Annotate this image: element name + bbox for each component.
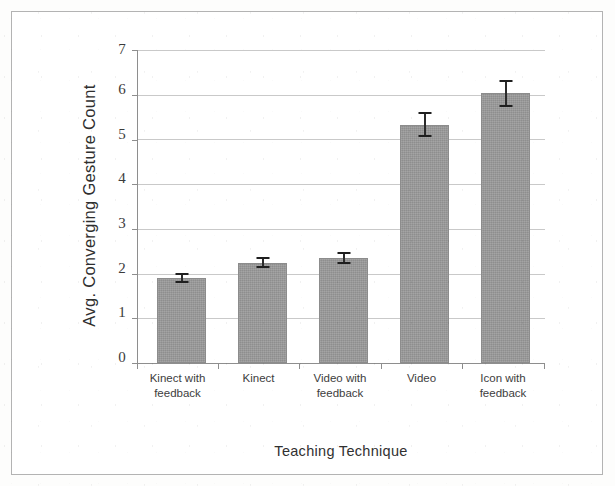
x-axis-title: Teaching Technique — [137, 443, 545, 459]
category-label-line-1: Kinect — [218, 371, 299, 386]
errorbar-cap-top — [256, 257, 269, 259]
category-label-line-1: Kinect with — [137, 371, 218, 386]
errorbar-cap-top — [418, 112, 431, 114]
category-label-line-2: feedback — [137, 386, 218, 401]
ytick-label-5: 5 — [100, 126, 126, 143]
category-label-line-1: Video with — [299, 371, 381, 386]
xtick-mark-2 — [299, 363, 300, 369]
ytick-wrap-5: 5 — [100, 126, 126, 144]
ytick-wrap-7: 7 — [100, 41, 126, 59]
errorbar-cap-bottom — [337, 262, 350, 264]
xtick-mark-1 — [218, 363, 219, 369]
ytick-label-7: 7 — [100, 41, 126, 58]
category-label-kinect: Kinect — [218, 371, 299, 386]
errorbar-stem — [505, 80, 507, 107]
bar-kinect — [238, 263, 287, 363]
errorbar-icon-with-feedback — [481, 80, 530, 107]
errorbar-video — [400, 112, 449, 137]
category-label-line-2: feedback — [299, 386, 381, 401]
category-label-video-with-feedback: Video with feedback — [299, 371, 381, 401]
category-label-line-1: Icon with — [462, 371, 544, 386]
errorbar-stem — [424, 112, 426, 137]
errorbar-cap-bottom — [499, 105, 512, 107]
xtick-mark-3 — [381, 363, 382, 369]
y-axis-line — [137, 50, 138, 364]
bar-video — [400, 125, 449, 363]
errorbar-kinect — [238, 257, 287, 268]
ytick-wrap-4: 4 — [100, 170, 126, 188]
errorbar-cap-top — [337, 252, 350, 254]
ytick-label-2: 2 — [100, 260, 126, 277]
x-axis-line — [137, 363, 545, 364]
category-label-video: Video — [381, 371, 462, 386]
ytick-label-1: 1 — [100, 304, 126, 321]
ytick-wrap-2: 2 — [100, 260, 126, 278]
bar-kinect-with-feedback — [157, 278, 206, 363]
errorbar-cap-bottom — [175, 281, 188, 283]
xtick-mark-4 — [462, 363, 463, 369]
category-label-kinect-with-feedback: Kinect with feedback — [137, 371, 218, 401]
ytick-wrap-1: 1 — [100, 304, 126, 322]
ytick-wrap-6: 6 — [100, 81, 126, 99]
ytick-label-3: 3 — [100, 215, 126, 232]
errorbar-cap-bottom — [256, 266, 269, 268]
errorbar-cap-top — [175, 273, 188, 275]
category-label-line-1: Video — [381, 371, 462, 386]
bar-icon-with-feedback — [481, 93, 530, 363]
ytick-label-0: 0 — [100, 349, 126, 366]
ytick-label-4: 4 — [100, 170, 126, 187]
gridline-7 — [137, 50, 545, 51]
plot-area — [137, 50, 545, 363]
category-label-line-2: feedback — [462, 386, 544, 401]
y-axis-title: Avg. Converging Gesture Count — [80, 56, 99, 356]
errorbar-kinect-with-feedback — [157, 273, 206, 283]
scanned-page: 0 1 2 3 4 5 6 7 — [0, 0, 615, 486]
errorbar-cap-top — [499, 80, 512, 82]
bar-chart-figure: 0 1 2 3 4 5 6 7 — [0, 0, 615, 486]
errorbar-cap-bottom — [418, 135, 431, 137]
bar-video-with-feedback — [319, 258, 368, 363]
category-label-icon-with-feedback: Icon with feedback — [462, 371, 544, 401]
xtick-mark-5 — [544, 363, 545, 369]
ytick-label-6: 6 — [100, 81, 126, 98]
ytick-wrap-0: 0 — [100, 349, 126, 367]
errorbar-video-with-feedback — [319, 252, 368, 264]
xtick-mark-0 — [137, 363, 138, 369]
ytick-wrap-3: 3 — [100, 215, 126, 233]
